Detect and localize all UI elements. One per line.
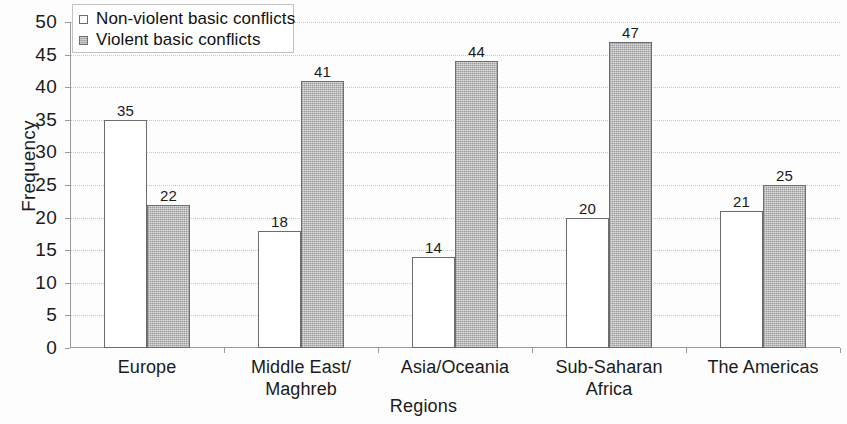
x-category-label-line: The Americas <box>686 356 840 378</box>
bar-group: 3522 <box>104 22 190 348</box>
bar-violent[interactable]: 22 <box>147 205 190 348</box>
bar-violent[interactable]: 41 <box>301 81 344 348</box>
y-tick-label: 15 <box>0 239 57 261</box>
legend-item[interactable]: Violent basic conflicts <box>79 30 293 50</box>
x-tick-mark <box>532 348 533 353</box>
y-tick-mark <box>65 22 70 23</box>
bar-value-label: 14 <box>425 239 442 256</box>
y-tick-label: 0 <box>0 337 57 359</box>
x-category-label-line: Sub-Saharan <box>532 356 686 378</box>
x-category-label: Europe <box>70 356 224 378</box>
x-axis-title: Regions <box>0 396 847 417</box>
y-tick-mark <box>65 250 70 251</box>
bar-group: 2047 <box>566 22 652 348</box>
y-tick-label: 5 <box>0 304 57 326</box>
bar-value-label: 47 <box>622 24 639 41</box>
y-tick-mark <box>65 55 70 56</box>
bar-value-label: 35 <box>117 102 134 119</box>
bar-nonviolent[interactable]: 35 <box>104 120 147 348</box>
bar-violent[interactable]: 25 <box>763 185 806 348</box>
bar-violent[interactable]: 47 <box>609 42 652 348</box>
y-tick-mark <box>65 218 70 219</box>
y-tick-label: 30 <box>0 141 57 163</box>
legend-item[interactable]: Non-violent basic conflicts <box>79 9 293 29</box>
bar-nonviolent[interactable]: 21 <box>720 211 763 348</box>
x-category-label: The Americas <box>686 356 840 378</box>
bar-violent[interactable]: 44 <box>455 61 498 348</box>
x-category-label-line: Middle East/ <box>224 356 378 378</box>
bar-value-label: 25 <box>776 167 793 184</box>
bar-group: 1444 <box>412 22 498 348</box>
bar-value-label: 20 <box>579 200 596 217</box>
legend-swatch-violent <box>79 36 88 45</box>
y-tick-mark <box>65 120 70 121</box>
bar-value-label: 44 <box>468 43 485 60</box>
legend-swatch-nonviolent <box>79 15 88 24</box>
x-category-label-line: Europe <box>70 356 224 378</box>
y-tick-mark <box>65 87 70 88</box>
bar-nonviolent[interactable]: 14 <box>412 257 455 348</box>
legend-label: Non-violent basic conflicts <box>96 9 295 29</box>
y-tick-mark <box>65 152 70 153</box>
y-tick-label: 50 <box>0 11 57 33</box>
bar-value-label: 41 <box>314 63 331 80</box>
bar-group: 2125 <box>720 22 806 348</box>
x-category-label-line: Asia/Oceania <box>378 356 532 378</box>
bar-group: 1841 <box>258 22 344 348</box>
y-tick-label: 35 <box>0 109 57 131</box>
y-tick-mark <box>65 283 70 284</box>
legend-label: Violent basic conflicts <box>96 30 261 50</box>
y-tick-label: 20 <box>0 207 57 229</box>
chart-legend: Non-violent basic conflictsViolent basic… <box>72 4 294 53</box>
bar-nonviolent[interactable]: 18 <box>258 231 301 348</box>
y-tick-mark <box>65 348 70 349</box>
bar-value-label: 21 <box>733 193 750 210</box>
x-tick-mark <box>840 348 841 353</box>
x-category-label: Sub-SaharanAfrica <box>532 356 686 400</box>
x-tick-mark <box>378 348 379 353</box>
y-tick-label: 10 <box>0 272 57 294</box>
x-tick-mark <box>224 348 225 353</box>
y-tick-mark <box>65 185 70 186</box>
bar-value-label: 22 <box>160 187 177 204</box>
bar-nonviolent[interactable]: 20 <box>566 218 609 348</box>
y-tick-label: 25 <box>0 174 57 196</box>
y-tick-mark <box>65 315 70 316</box>
bar-value-label: 18 <box>271 213 288 230</box>
y-tick-label: 40 <box>0 76 57 98</box>
x-category-label: Middle East/Maghreb <box>224 356 378 400</box>
y-tick-label: 45 <box>0 44 57 66</box>
plot-area: 50454035302520151050 3522184114442047212… <box>70 22 840 348</box>
bar-chart: Frequency 50454035302520151050 352218411… <box>0 0 847 424</box>
x-category-label: Asia/Oceania <box>378 356 532 378</box>
x-tick-mark <box>686 348 687 353</box>
